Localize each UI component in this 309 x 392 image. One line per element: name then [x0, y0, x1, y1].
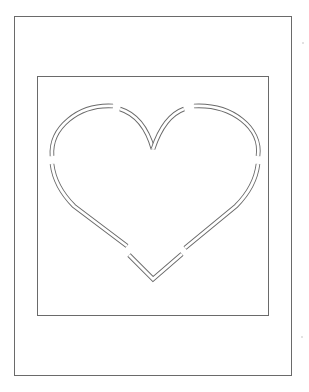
heart-segment-upper-right-outer-arc: [194, 106, 258, 156]
heart-segment-lower-left-side: [52, 164, 127, 246]
heart-segment-upper-left-inner-arc: [120, 109, 153, 149]
heart-segment-upper-right-inner-arc: [153, 109, 184, 149]
heart-segment-upper-left-outer-arc: [52, 106, 113, 156]
heart-segment-lower-right-side: [185, 164, 258, 248]
heart-segment-bottom-point: [129, 254, 182, 279]
heart-stencil: [0, 0, 309, 392]
